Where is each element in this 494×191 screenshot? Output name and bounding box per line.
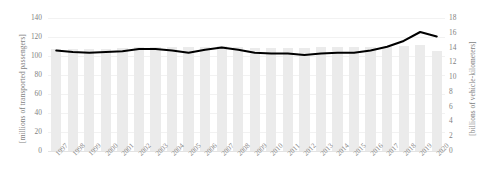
y-axis-right-tick-label: 8 xyxy=(449,88,471,95)
y-axis-left-tick-label: 20 xyxy=(20,128,42,135)
chart-container: [millions of transported passengers] [bi… xyxy=(0,0,494,191)
y-axis-left-tick-label: 120 xyxy=(20,33,42,40)
y-axis-right-tick-label: 16 xyxy=(449,29,471,36)
x-axis-ticks: 1997199819992000200120022003200420052006… xyxy=(48,152,445,191)
y-axis-right-ticks: 024681012141618 xyxy=(449,0,473,191)
y-axis-right-tick-label: 14 xyxy=(449,44,471,51)
y-axis-left-ticks: 020406080100120140 xyxy=(18,0,42,191)
line-series-vehicle-kilometers xyxy=(48,18,445,151)
y-axis-left-tick-label: 0 xyxy=(20,147,42,154)
y-axis-right-tick-label: 0 xyxy=(449,147,471,154)
y-axis-left-tick-label: 80 xyxy=(20,71,42,78)
y-axis-left-tick-label: 60 xyxy=(20,90,42,97)
y-axis-right-tick-label: 4 xyxy=(449,117,471,124)
y-axis-right-tick-label: 12 xyxy=(449,58,471,65)
plot-area xyxy=(48,18,445,151)
y-axis-right-tick-label: 10 xyxy=(449,73,471,80)
y-axis-right-tick-label: 18 xyxy=(449,14,471,21)
y-axis-left-tick-label: 100 xyxy=(20,52,42,59)
y-axis-right-tick-label: 6 xyxy=(449,103,471,110)
y-axis-left-tick-label: 140 xyxy=(20,14,42,21)
y-axis-right-tick-label: 2 xyxy=(449,132,471,139)
y-axis-left-tick-label: 40 xyxy=(20,109,42,116)
